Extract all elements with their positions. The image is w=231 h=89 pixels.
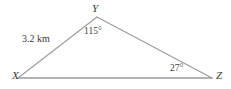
triangle-drawing-canvas	[0, 0, 231, 89]
vertex-label-y: Y	[92, 3, 98, 14]
triangle-diagram-figure: Y X Z 115° 27° 3.2 km	[0, 0, 231, 89]
vertex-label-x: X	[12, 70, 19, 81]
triangle-side-yz	[97, 17, 212, 78]
angle-label-at-y: 115°	[84, 27, 102, 37]
angle-label-at-z: 27°	[170, 64, 183, 74]
vertex-label-z: Z	[216, 70, 222, 81]
side-length-label-xy: 3.2 km	[22, 34, 50, 44]
